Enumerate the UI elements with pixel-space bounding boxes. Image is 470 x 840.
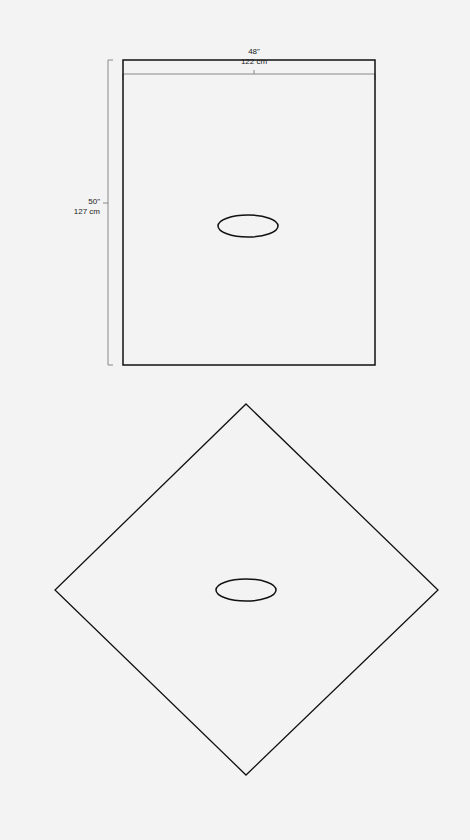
bottom-panel-oval-opening <box>216 579 276 601</box>
width-label: 48" 122 cm <box>224 47 284 67</box>
bottom-panel-diamond <box>55 404 438 775</box>
top-panel-rectangle <box>123 60 375 365</box>
top-panel-oval-opening <box>218 215 278 237</box>
height-label-inches: 50" <box>40 197 100 207</box>
width-dimension-bracket <box>123 70 375 80</box>
width-label-cm: 122 cm <box>224 57 284 67</box>
width-label-inches: 48" <box>224 47 284 57</box>
schematic-canvas <box>0 0 470 840</box>
height-label: 50" 127 cm <box>40 197 100 217</box>
height-label-cm: 127 cm <box>40 207 100 217</box>
height-dimension-bracket <box>103 60 113 365</box>
